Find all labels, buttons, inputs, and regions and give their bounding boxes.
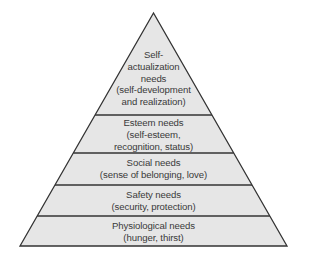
level-social: Social needs (sense of belonging, love): [100, 157, 207, 181]
level-line: Esteem needs: [114, 117, 193, 129]
level-line: needs: [116, 73, 191, 85]
level-line: Physiological needs: [112, 220, 195, 232]
level-line: (security, protection): [112, 201, 196, 213]
level-line: and realization): [116, 96, 191, 108]
level-line: Social needs: [100, 157, 207, 169]
level-line: (hunger, thirst): [112, 232, 195, 244]
level-line: (self-development: [116, 84, 191, 96]
level-esteem: Esteem needs (self-esteem, recognition, …: [114, 117, 193, 152]
level-line: Self-: [116, 49, 191, 61]
level-line: actualization: [116, 61, 191, 73]
level-line: (self-esteem,: [114, 129, 193, 141]
level-line: recognition, status): [114, 141, 193, 153]
level-safety: Safety needs (security, protection): [112, 189, 196, 213]
level-line: Safety needs: [112, 189, 196, 201]
level-self-actualization: Self- actualization needs (self-developm…: [116, 49, 191, 108]
level-line: (sense of belonging, love): [100, 169, 207, 181]
level-physiological: Physiological needs (hunger, thirst): [112, 220, 195, 244]
